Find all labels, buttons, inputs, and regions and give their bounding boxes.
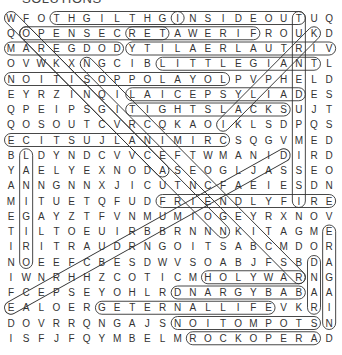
grid-letter: N [4, 72, 19, 87]
grid-letter: T [170, 178, 185, 193]
grid-letter: R [185, 331, 200, 346]
grid-letter: L [49, 163, 64, 178]
grid-letter: O [19, 72, 34, 87]
grid-letter: J [49, 331, 64, 346]
grid-letter: Q [322, 11, 337, 26]
grid-letter: L [322, 56, 337, 71]
grid-letter: S [216, 239, 231, 254]
grid-letter: O [200, 331, 215, 346]
grid-letter: D [140, 255, 155, 270]
grid-letter: F [110, 194, 125, 209]
grid-letter: H [125, 285, 140, 300]
grid-letter: I [110, 102, 125, 117]
grid-letter: N [216, 224, 231, 239]
grid-letter: G [216, 163, 231, 178]
grid-letter: N [34, 270, 49, 285]
grid-letter: E [79, 163, 94, 178]
grid-letter: I [19, 194, 34, 209]
grid-letter: K [231, 117, 246, 132]
grid-letter: M [170, 209, 185, 224]
grid-letter: M [307, 224, 322, 239]
grid-letter: G [155, 102, 170, 117]
grid-letter: V [110, 148, 125, 163]
grid-letter: L [246, 87, 261, 102]
grid-letter: I [231, 300, 246, 315]
grid-letter: D [34, 148, 49, 163]
grid-letter: T [4, 224, 19, 239]
grid-letter: A [276, 224, 291, 239]
grid-letter: M [4, 41, 19, 56]
grid-letter: R [261, 209, 276, 224]
grid-letter: E [49, 255, 64, 270]
grid-letter: I [231, 26, 246, 41]
grid-letter: I [322, 300, 337, 315]
grid-letter: U [261, 41, 276, 56]
grid-letter: S [79, 26, 94, 41]
grid-letter: O [200, 163, 215, 178]
grid-letter: K [49, 56, 64, 71]
grid-letter: N [200, 224, 215, 239]
grid-letter: B [140, 56, 155, 71]
grid-letter: D [110, 239, 125, 254]
grid-letter: U [155, 209, 170, 224]
grid-letter: I [261, 87, 276, 102]
grid-letter: N [216, 194, 231, 209]
grid-letter: N [79, 87, 94, 102]
grid-letter: S [19, 331, 34, 346]
grid-letter: H [64, 270, 79, 285]
grid-letter: B [231, 255, 246, 270]
grid-letter: C [200, 178, 215, 193]
grid-letter: P [64, 102, 79, 117]
grid-letter: C [170, 270, 185, 285]
grid-letter: R [261, 26, 276, 41]
grid-letter: T [49, 72, 64, 87]
grid-letter: R [307, 300, 322, 315]
grid-letter: O [200, 209, 215, 224]
grid-letter: J [94, 133, 109, 148]
grid-letter: L [140, 285, 155, 300]
grid-letter: Y [94, 331, 109, 346]
grid-letter: R [34, 87, 49, 102]
grid-letter: V [110, 117, 125, 132]
grid-letter: V [322, 41, 337, 56]
grid-letter: N [64, 148, 79, 163]
grid-letter: Q [307, 117, 322, 132]
grid-letter: R [64, 316, 79, 331]
grid-letter: C [261, 239, 276, 254]
grid-letter: U [276, 11, 291, 26]
grid-letter: H [170, 102, 185, 117]
grid-letter: Z [94, 270, 109, 285]
grid-letter: B [246, 239, 261, 254]
grid-letter: U [291, 26, 306, 41]
grid-letter: O [200, 255, 215, 270]
grid-letter: D [322, 133, 337, 148]
grid-letter: M [170, 331, 185, 346]
grid-letter: I [291, 194, 306, 209]
grid-letter: A [185, 300, 200, 315]
grid-letter: R [291, 331, 306, 346]
grid-letter: B [291, 285, 306, 300]
grid-letter: F [246, 26, 261, 41]
grid-letter: D [79, 148, 94, 163]
grid-letter: I [94, 11, 109, 26]
grid-letter: L [34, 224, 49, 239]
grid-letter: P [125, 72, 140, 87]
grid-letter: C [94, 148, 109, 163]
grid-letter: J [246, 163, 261, 178]
grid-letter: L [155, 56, 170, 71]
grid-letter: H [64, 11, 79, 26]
grid-letter: A [231, 178, 246, 193]
grid-letter: W [185, 26, 200, 41]
grid-letter: N [140, 239, 155, 254]
grid-letter: H [276, 72, 291, 87]
grid-letter: L [307, 72, 322, 87]
grid-letter: O [307, 239, 322, 254]
grid-letter: E [64, 300, 79, 315]
grid-letter: B [261, 285, 276, 300]
grid-letter: N [64, 26, 79, 41]
grid-letter: S [291, 163, 306, 178]
grid-letter: Y [185, 72, 200, 87]
grid-letter: R [291, 41, 306, 56]
grid-letter: R [200, 133, 215, 148]
grid-letter: G [261, 133, 276, 148]
